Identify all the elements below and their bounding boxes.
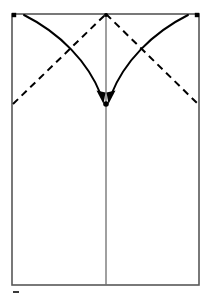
apex-dot-top-center (104, 13, 108, 17)
target-dot-center (103, 101, 109, 107)
corner-dot-top-right (195, 13, 199, 17)
origami-diagram-svg (0, 0, 211, 297)
corner-dot-top-left (12, 13, 16, 17)
page-tick-mark (13, 291, 19, 293)
origami-figure (0, 0, 211, 297)
